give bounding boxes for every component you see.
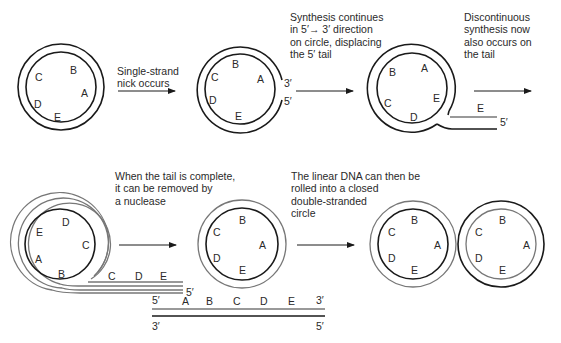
svg-text:A: A: [434, 239, 441, 251]
svg-text:A: A: [421, 62, 428, 74]
svg-text:E: E: [239, 264, 246, 276]
svg-text:A: A: [259, 239, 266, 251]
svg-text:5′: 5′: [500, 116, 508, 128]
svg-text:E: E: [477, 102, 484, 114]
svg-text:B: B: [70, 64, 77, 76]
svg-text:E: E: [36, 226, 43, 238]
svg-text:E: E: [499, 264, 506, 276]
svg-text:E: E: [160, 270, 167, 282]
svg-text:A: A: [35, 253, 42, 265]
svg-text:C: C: [233, 295, 241, 307]
linear-dna-duplex: 5′ A B C D E 3′ 3′ 5′: [152, 294, 325, 332]
caption-nick: Single-strand nick occurs: [117, 65, 179, 90]
svg-text:D: D: [260, 295, 268, 307]
caption-synthesis: Synthesis continues in 5′→ 3′ direction …: [290, 11, 383, 60]
svg-text:5′: 5′: [284, 95, 292, 107]
svg-text:B: B: [206, 295, 213, 307]
svg-text:A: A: [523, 239, 530, 251]
svg-text:3′: 3′: [316, 294, 324, 306]
svg-text:3′: 3′: [284, 77, 292, 89]
svg-text:C: C: [35, 71, 43, 83]
svg-text:A: A: [257, 73, 264, 85]
svg-text:D: D: [34, 98, 42, 110]
caption-recircularize: The linear DNA can then be rolled into a…: [291, 170, 420, 219]
svg-text:B: B: [389, 66, 396, 78]
svg-text:B: B: [499, 214, 506, 226]
svg-text:D: D: [410, 111, 418, 123]
svg-text:E: E: [411, 264, 418, 276]
circle-5-released: C B A D E: [198, 200, 286, 288]
svg-text:D: D: [213, 252, 221, 264]
svg-text:5′: 5′: [316, 320, 324, 332]
svg-text:E: E: [235, 110, 242, 122]
svg-text:D: D: [475, 252, 483, 264]
svg-text:A: A: [182, 295, 189, 307]
svg-text:3′: 3′: [152, 320, 160, 332]
svg-text:C: C: [108, 270, 116, 282]
svg-text:C: C: [388, 226, 396, 238]
svg-text:5′: 5′: [152, 294, 160, 306]
svg-text:C: C: [475, 226, 483, 238]
svg-text:B: B: [58, 268, 65, 280]
svg-text:C: C: [211, 71, 219, 83]
circle-7-template: C B A D E: [458, 201, 544, 287]
svg-text:D: D: [62, 216, 70, 228]
circle-2-nicked: C B A D E 3′ 5′: [197, 47, 292, 133]
svg-text:C: C: [82, 239, 90, 251]
svg-text:A: A: [81, 87, 88, 99]
svg-text:E: E: [54, 111, 61, 123]
svg-text:C: C: [384, 97, 392, 109]
svg-text:E: E: [433, 92, 440, 104]
svg-text:B: B: [232, 58, 239, 70]
svg-text:D: D: [135, 270, 143, 282]
circle-1-intact: C B A D E: [18, 44, 104, 130]
caption-nuclease: When the tail is complete, it can be rem…: [115, 170, 235, 207]
svg-text:E: E: [288, 295, 295, 307]
svg-text:B: B: [239, 214, 246, 226]
caption-discontinuous: Discontinuous synthesis now also occurs …: [464, 11, 532, 60]
svg-text:C: C: [213, 226, 221, 238]
svg-text:D: D: [388, 252, 396, 264]
svg-text:D: D: [209, 94, 217, 106]
